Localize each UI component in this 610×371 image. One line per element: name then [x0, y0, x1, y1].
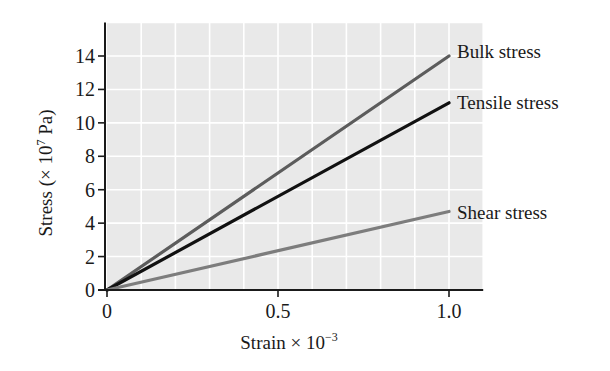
y-tick-label: 0 [85, 279, 95, 301]
y-axis-ticks: 02468101214 [75, 45, 105, 301]
y-tick-label: 8 [85, 145, 95, 167]
y-tick-label: 6 [85, 179, 95, 201]
x-axis-title: Strain × 10−3 [240, 330, 337, 353]
y-tick-label: 2 [85, 246, 95, 268]
series-label-tensile-stress: Tensile stress [457, 92, 559, 113]
x-tick-label: 0 [102, 300, 112, 322]
y-tick-label: 4 [85, 212, 95, 234]
y-axis-title: Stress (× 107 Pa) [34, 109, 57, 236]
y-tick-label: 12 [75, 78, 95, 100]
x-tick-label: 0.5 [266, 300, 291, 322]
series-label-bulk-stress: Bulk stress [457, 41, 541, 62]
series-label-shear-stress: Shear stress [457, 202, 547, 223]
y-tick-label: 14 [75, 45, 95, 67]
y-tick-label: 10 [75, 112, 95, 134]
x-tick-label: 1.0 [437, 300, 462, 322]
x-axis-ticks: 00.51.0 [102, 290, 462, 322]
stress-strain-chart: 02468101214 00.51.0 Bulk stressTensile s… [0, 0, 610, 371]
